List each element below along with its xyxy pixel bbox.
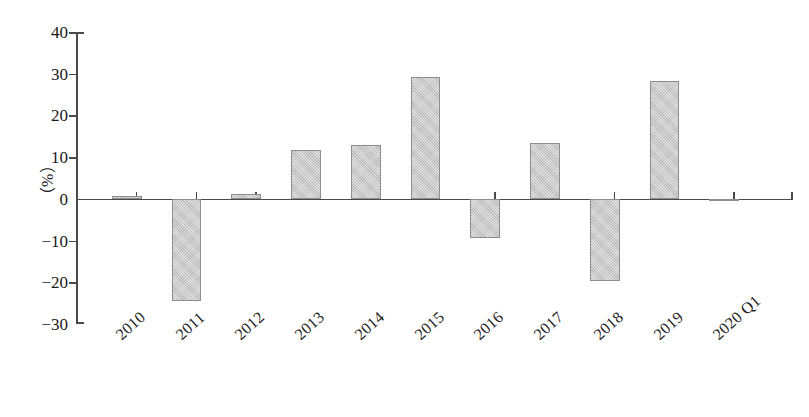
bar-2011 bbox=[172, 199, 202, 301]
y-axis-tick-labels: 40 30 20 10 0 −10 −20 −30 bbox=[22, 0, 68, 417]
y-tick-label-30: 30 bbox=[24, 65, 68, 82]
y-tick-mark-40 bbox=[69, 32, 76, 34]
y-axis-bottom-cap bbox=[76, 322, 84, 324]
bar-2010 bbox=[112, 196, 142, 199]
bar-2017 bbox=[530, 143, 560, 198]
y-tick-label-40: 40 bbox=[24, 24, 68, 41]
bar-2012 bbox=[231, 194, 261, 199]
y-tick-mark-30 bbox=[69, 74, 76, 76]
y-tick-label-neg20: −20 bbox=[24, 274, 68, 291]
y-tick-mark-20 bbox=[69, 115, 76, 117]
y-tick-label-neg30: −30 bbox=[24, 316, 68, 333]
bar-chart: （%） 40 30 20 10 0 −10 −20 −30 bbox=[0, 0, 809, 417]
y-axis-top-cap bbox=[76, 32, 84, 34]
bar-2016 bbox=[470, 199, 500, 238]
bar-2014 bbox=[351, 145, 381, 199]
y-tick-mark-10 bbox=[69, 157, 76, 159]
y-tick-mark-neg20 bbox=[69, 282, 76, 284]
y-tick-label-10: 10 bbox=[24, 149, 68, 166]
y-tick-label-20: 20 bbox=[24, 107, 68, 124]
bar-2015 bbox=[411, 77, 441, 199]
bar-2020-Q1 bbox=[709, 199, 739, 201]
bar-2019 bbox=[650, 81, 680, 199]
plot-area bbox=[76, 32, 793, 324]
bar-2018 bbox=[590, 199, 620, 282]
y-tick-label-0: 0 bbox=[24, 190, 68, 207]
y-tick-label-neg10: −10 bbox=[24, 232, 68, 249]
y-tick-mark-neg10 bbox=[69, 241, 76, 243]
y-axis-line bbox=[76, 32, 78, 324]
x-tick-mark-12 bbox=[791, 192, 793, 199]
bar-2013 bbox=[291, 150, 321, 198]
